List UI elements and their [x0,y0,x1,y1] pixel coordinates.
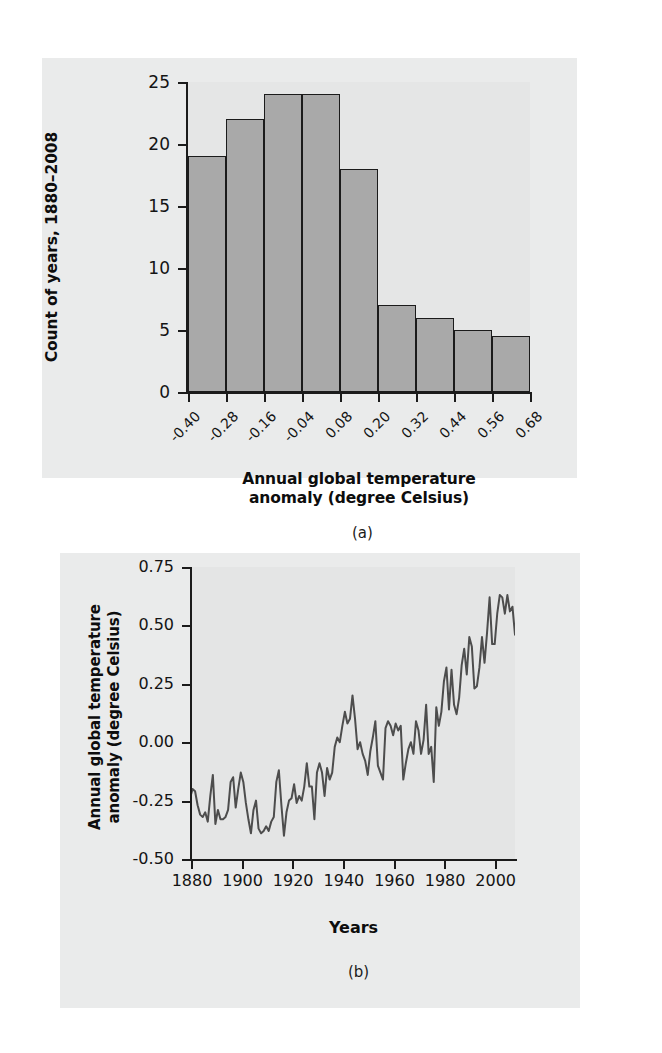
histogram-ytick-10 [178,268,186,270]
timeseries-line-svg [190,567,515,859]
figure-a: 0 5 10 15 20 25 -0.40 -0.28 -0.16 -0.04 … [0,0,662,555]
timeseries-xtick-1980 [444,861,446,869]
histogram-bar-2 [226,119,264,392]
timeseries-xtick-1900 [242,861,244,869]
histogram-xtick-0 [188,394,190,402]
timeseries-y-axis-label-line2: anomaly (degree Celsius) [105,611,123,824]
histogram-x-axis-label-line1: Annual global temperature [242,470,475,488]
timeseries-xtick-label-2000: 2000 [466,871,526,890]
histogram-ytick-label-5: 5 [130,320,170,340]
histogram-x-axis [186,392,532,394]
histogram-bar-4 [302,94,340,392]
figure-page: 0 5 10 15 20 25 -0.40 -0.28 -0.16 -0.04 … [0,0,662,1053]
histogram-xtick-6 [416,394,418,402]
timeseries-xtick-1880 [191,861,193,869]
histogram-ytick-label-20: 20 [130,134,170,154]
histogram-ytick-label-25: 25 [130,72,170,92]
histogram-ytick-label-0: 0 [130,382,170,402]
histogram-xtick-8 [492,394,494,402]
histogram-bar-7 [416,318,454,392]
timeseries-xtick-2000 [495,861,497,869]
timeseries-plot-area [190,567,515,859]
timeseries-ytick-025 [182,684,190,686]
histogram-xtick-7 [454,394,456,402]
timeseries-xtick-1960 [394,861,396,869]
histogram-ytick-0 [178,392,186,394]
timeseries-y-axis [190,567,192,861]
histogram-bar-1 [188,156,226,392]
histogram-bar-8 [454,330,492,392]
timeseries-xtick-1940 [343,861,345,869]
histogram-xtick-2 [264,394,266,402]
histogram-bar-9 [492,336,530,392]
histogram-ytick-5 [178,330,186,332]
histogram-ytick-label-10: 10 [130,258,170,278]
timeseries-ytick-075 [182,567,190,569]
timeseries-ytick-050 [182,625,190,627]
histogram-bar-3 [264,94,302,392]
timeseries-x-axis [190,859,517,861]
histogram-xtick-3 [302,394,304,402]
histogram-ytick-15 [178,206,186,208]
histogram-xtick-4 [340,394,342,402]
histogram-xtick-1 [226,394,228,402]
timeseries-line [190,595,515,836]
histogram-bar-6 [378,305,416,392]
timeseries-y-axis-label-line1: Annual global temperature [86,604,104,830]
histogram-bar-5 [340,169,378,392]
timeseries-xtick-1920 [292,861,294,869]
timeseries-x-axis-label: Years [190,918,517,937]
figure-b: 0.75 0.50 0.25 0.00 -0.25 -0.50 1880 190… [0,553,662,1033]
timeseries-ytick-neg050 [182,859,190,861]
histogram-x-axis-label: Annual global temperature anomaly (degre… [186,470,532,508]
timeseries-ytick-neg025 [182,801,190,803]
figure-b-caption: (b) [348,963,369,981]
histogram-ytick-25 [178,82,186,84]
timeseries-ytick-000 [182,742,190,744]
histogram-ytick-label-15: 15 [130,196,170,216]
histogram-y-axis-label: Count of years, 1880–2008 [43,97,61,397]
histogram-xtick-5 [378,394,380,402]
figure-a-caption: (a) [352,524,373,542]
histogram-xtick-9 [530,394,532,402]
histogram-x-axis-label-line2: anomaly (degree Celsius) [249,489,469,507]
histogram-ytick-20 [178,144,186,146]
timeseries-y-axis-label: Annual global temperature anomaly (degre… [86,552,124,882]
